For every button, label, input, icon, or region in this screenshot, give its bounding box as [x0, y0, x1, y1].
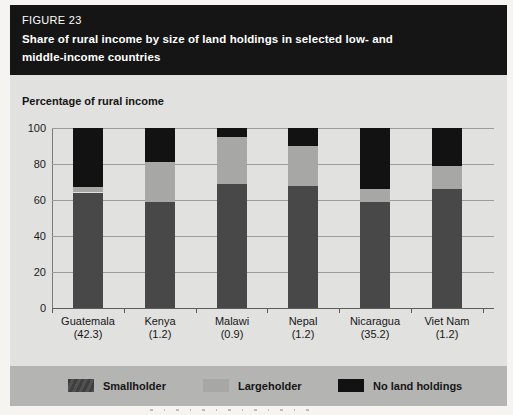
bar-segment-smallholder-malawi [217, 184, 247, 308]
category-name: Malawi [196, 315, 268, 328]
legend: Smallholder Largeholder No land holdings [10, 366, 507, 406]
gridline-80 [52, 164, 494, 165]
gridline-0 [52, 308, 494, 309]
gridline-60 [52, 200, 494, 201]
y-tick-label-60: 60 [8, 194, 46, 206]
page: FIGURE 23 Share of rural income by size … [0, 0, 513, 415]
bar-segment-largeholder-viet-nam [432, 166, 462, 189]
category-value: (35.2) [339, 328, 411, 341]
smallholder-swatch [68, 379, 94, 392]
bar-segment-no-land-holdings-malawi [217, 128, 247, 137]
bar-segment-smallholder-nicaragua [360, 202, 390, 308]
bar-segment-no-land-holdings-kenya [145, 128, 175, 162]
category-name: Nicaragua [339, 315, 411, 328]
category-value: (1.2) [267, 328, 339, 341]
y-tick-label-80: 80 [8, 158, 46, 170]
category-value: (1.2) [411, 328, 483, 341]
stacked-bar-chart: 020406080100Guatemala(42.3)Kenya(1.2)Mal… [0, 0, 513, 415]
category-name: Guatemala [52, 315, 124, 328]
category-name: Nepal [267, 315, 339, 328]
y-tick-label-100: 100 [8, 122, 46, 134]
bar-segment-largeholder-kenya [145, 162, 175, 202]
x-axis-tick-6 [483, 308, 484, 313]
y-tick-label-20: 20 [8, 266, 46, 278]
legend-label-largeholder: Largeholder [238, 380, 302, 392]
x-axis-tick-1 [124, 308, 125, 313]
category-label-guatemala: Guatemala(42.3) [52, 315, 124, 341]
category-label-malawi: Malawi(0.9) [196, 315, 268, 341]
category-label-nicaragua: Nicaragua(35.2) [339, 315, 411, 341]
bar-segment-largeholder-nicaragua [360, 189, 390, 202]
bar-segment-smallholder-guatemala [73, 193, 103, 308]
legend-label-smallholder: Smallholder [103, 380, 166, 392]
bar-segment-largeholder-nepal [288, 146, 318, 186]
x-axis-tick-3 [267, 308, 268, 313]
y-axis-line [52, 128, 53, 309]
largeholder-swatch [203, 379, 229, 392]
x-axis-tick-4 [339, 308, 340, 313]
category-value: (42.3) [52, 328, 124, 341]
category-label-viet-nam: Viet Nam(1.2) [411, 315, 483, 341]
x-axis-tick-0 [52, 308, 53, 313]
bar-segment-no-land-holdings-viet-nam [432, 128, 462, 166]
legend-item-largeholder: Largeholder [203, 379, 302, 392]
bar-segment-no-land-holdings-guatemala [73, 128, 103, 187]
gridline-100 [52, 128, 494, 129]
category-value: (0.9) [196, 328, 268, 341]
gridline-40 [52, 236, 494, 237]
category-label-kenya: Kenya(1.2) [124, 315, 196, 341]
y-tick-label-0: 0 [8, 302, 46, 314]
legend-item-smallholder: Smallholder [68, 379, 166, 392]
category-name: Viet Nam [411, 315, 483, 328]
legend-item-no-land-holdings: No land holdings [338, 379, 462, 392]
bar-segment-largeholder-malawi [217, 137, 247, 184]
category-value: (1.2) [124, 328, 196, 341]
x-axis-tick-5 [411, 308, 412, 313]
bar-segment-largeholder-guatemala [73, 187, 103, 192]
x-axis-tick-2 [196, 308, 197, 313]
bar-segment-smallholder-viet-nam [432, 189, 462, 308]
gridline-20 [52, 272, 494, 273]
legend-label-no-land-holdings: No land holdings [373, 380, 462, 392]
no-land-holdings-swatch [338, 379, 364, 392]
category-label-nepal: Nepal(1.2) [267, 315, 339, 341]
bar-segment-no-land-holdings-nicaragua [360, 128, 390, 189]
bar-segment-smallholder-kenya [145, 202, 175, 308]
y-tick-label-40: 40 [8, 230, 46, 242]
bar-segment-smallholder-nepal [288, 186, 318, 308]
cropped-text-remnant [150, 409, 310, 411]
bar-segment-no-land-holdings-nepal [288, 128, 318, 146]
category-name: Kenya [124, 315, 196, 328]
